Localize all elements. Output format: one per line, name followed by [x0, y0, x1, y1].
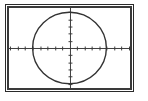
plot-area[interactable] [9, 8, 130, 88]
plot-svg [9, 8, 130, 88]
graph-window-inner-frame [7, 6, 132, 90]
graph-window-frame [5, 4, 134, 92]
screenshot-root [0, 0, 148, 101]
